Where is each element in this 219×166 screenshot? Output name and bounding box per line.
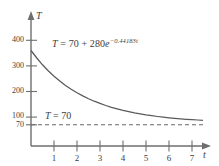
curve-equation-annotation: T = 70 + 280e−0.44183t — [52, 38, 138, 49]
y-tick-label-200: 200 — [2, 87, 24, 95]
x-tick-label-4: 4 — [117, 154, 129, 163]
y-tick-label-70: 70 — [2, 121, 24, 129]
x-tick-label-5: 5 — [140, 154, 152, 163]
y-tick-label-300: 300 — [2, 62, 24, 70]
x-tick-label-6: 6 — [163, 154, 175, 163]
equation-amplitude: 280 — [90, 38, 105, 49]
asymptote-annotation: T = 70 — [45, 111, 71, 121]
x-tick-label-2: 2 — [71, 154, 83, 163]
exponential-decay-figure: 400 300 200 100 70 1 2 3 4 5 6 7 T t T =… — [0, 0, 219, 166]
plot-canvas — [0, 0, 219, 166]
asymptote-value: 70 — [61, 110, 71, 121]
equation-offset: 70 — [69, 38, 79, 49]
x-axis-label: t — [203, 150, 206, 160]
y-axis-arrow-icon — [28, 11, 35, 20]
y-axis-label: T — [36, 11, 42, 21]
y-tick-label-400: 400 — [2, 36, 24, 44]
equation-exponent: −0.44183t — [110, 37, 138, 44]
equation-plus: + — [79, 38, 90, 49]
equation-equals: = — [58, 38, 69, 49]
x-tick-label-7: 7 — [186, 154, 198, 163]
x-tick-label-1: 1 — [48, 154, 60, 163]
asymptote-equals: = — [51, 110, 62, 121]
x-tick-label-3: 3 — [94, 154, 106, 163]
